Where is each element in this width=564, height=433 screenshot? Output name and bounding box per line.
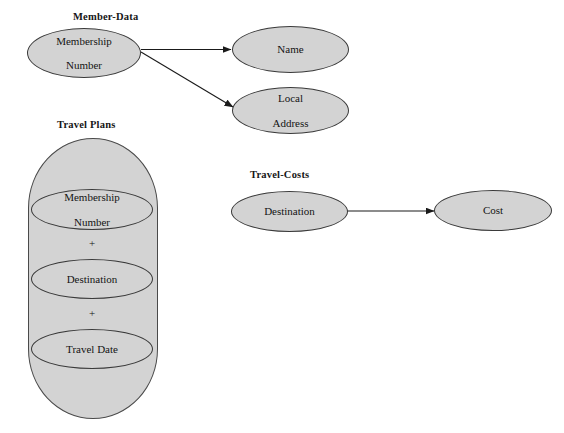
group-label-member-data: Member-Data (73, 11, 138, 22)
node-label-destination-travel-plans: Destination (63, 273, 122, 285)
node-membership-number-travel-plans[interactable]: MembershipNumber (31, 189, 153, 230)
node-label-cost: Cost (479, 204, 507, 216)
node-membership-number-member-data[interactable]: MembershipNumber (27, 28, 141, 78)
group-label-travel-plans: Travel Plans (57, 119, 116, 130)
node-destination-travel-costs[interactable]: Destination (231, 191, 348, 232)
node-local-address[interactable]: LocalAddress (232, 87, 349, 134)
connector-plus-2: + (82, 308, 102, 319)
connector-plus-1: + (82, 238, 102, 249)
node-label-travel-date: Travel Date (62, 343, 122, 355)
node-destination-travel-plans[interactable]: Destination (31, 259, 153, 299)
node-label-name: Name (273, 43, 307, 55)
node-label-membership-number-travel-plans: MembershipNumber (56, 191, 128, 228)
node-label-destination-travel-costs: Destination (260, 205, 319, 217)
edge-member-key-to-local-address (141, 52, 233, 107)
group-label-travel-costs: Travel-Costs (250, 169, 309, 180)
node-label-local-address: LocalAddress (264, 92, 316, 129)
node-label-membership-number-member-data: MembershipNumber (48, 35, 120, 72)
node-name[interactable]: Name (232, 26, 349, 73)
diagram-canvas: Member-Data MembershipNumber Name LocalA… (0, 0, 564, 433)
node-cost[interactable]: Cost (434, 190, 552, 231)
node-travel-date[interactable]: Travel Date (31, 329, 153, 369)
